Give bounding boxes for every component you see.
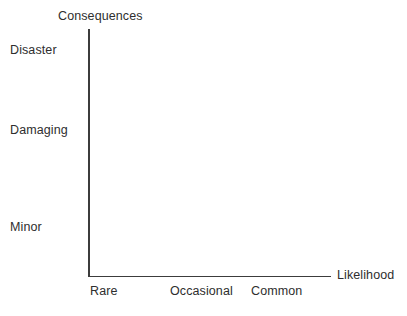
y-axis-tick-label-minor: Minor (10, 220, 42, 235)
risk-matrix-chart: Consequences Likelihood Disaster Damagin… (0, 0, 407, 316)
y-axis-tick-label-damaging: Damaging (10, 123, 68, 138)
x-axis-title: Likelihood (337, 268, 394, 283)
y-axis-title: Consequences (58, 9, 143, 24)
y-axis-tick-label-disaster: Disaster (10, 43, 57, 58)
x-axis-tick-label-rare: Rare (90, 284, 118, 299)
x-axis-tick-label-occasional: Occasional (170, 284, 233, 299)
x-axis-tick-label-common: Common (251, 284, 302, 299)
y-axis-line (88, 29, 90, 277)
x-axis-line (88, 276, 331, 278)
